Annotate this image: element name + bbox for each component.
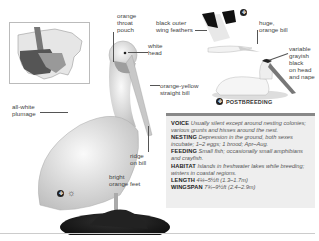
label-white-head: white head (148, 42, 162, 56)
swimming-pelican-illustration (210, 55, 300, 100)
info-feeding: FEEDING Small fish; occasionally small a… (171, 148, 311, 162)
info-length: LENGTH 4¼–5½ft (1.3–1.7m) (171, 177, 311, 184)
label-orange-throat-pouch: orange throat pouch (117, 12, 136, 33)
leader-line (257, 30, 258, 44)
leader-line (128, 52, 148, 53)
label-orange-yellow-bill: orange-yellow straight bill (160, 82, 199, 96)
leader-line (113, 32, 114, 62)
leader-line (150, 85, 160, 86)
label-bright-orange-feet: bright orange feet (109, 173, 140, 187)
label-ridge-on-bill: ridge on bill (130, 152, 146, 166)
leader-line (148, 126, 149, 152)
info-voice: VOICE Usually silent except around nesti… (171, 120, 311, 134)
label-huge-orange-bill: huge, orange bill (259, 19, 288, 33)
postbreeding-label: POSTBREEDING (226, 99, 272, 106)
postbreeding-season-icon: ✤ (216, 98, 223, 105)
breeding-season-icon: ✤ (240, 9, 247, 16)
label-all-white-plumage: all-white plumage (12, 103, 36, 117)
bottom-rule (0, 233, 315, 234)
leader-line (195, 30, 207, 31)
label-variable-grayish-head: variable grayish black on head and nape (289, 45, 315, 80)
info-wingspan: WINGSPAN 7¾–9½ft (2.4–2.9m) (171, 184, 311, 191)
leader-line (40, 112, 68, 113)
breeding-season-icon: ✤ (57, 190, 64, 197)
label-black-outer-wing: black outer wing feathers (156, 19, 193, 33)
sun-icon: ☼ (67, 188, 75, 198)
info-habitat: HABITAT Islands in freshwater lakes whil… (171, 163, 311, 177)
flying-pelican-illustration (200, 8, 260, 56)
info-nesting: NESTING Depression in the ground, both s… (171, 134, 311, 148)
species-info-box: VOICE Usually silent except around nesti… (166, 116, 315, 208)
